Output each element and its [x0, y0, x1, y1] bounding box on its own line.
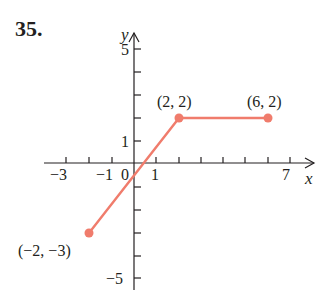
x-axis — [44, 157, 314, 168]
data-point — [85, 229, 94, 238]
x-tick-label: −3 — [50, 166, 67, 183]
x-tick-label: 7 — [282, 166, 290, 183]
y-tick-label: 1 — [121, 133, 129, 150]
point-label: (−2, −3) — [18, 242, 71, 260]
x-tick-label: 1 — [151, 166, 159, 183]
graph: y x −3 −1 0 1 7 5 1 −5 (−2, −3) (2, 2) (… — [0, 0, 320, 291]
x-tick-label: 0 — [121, 166, 129, 183]
y-axis — [129, 33, 141, 290]
data-point — [175, 114, 184, 123]
x-axis-label: x — [304, 169, 313, 188]
y-tick-label: 5 — [121, 41, 129, 58]
y-tick-label: −5 — [106, 270, 123, 287]
x-tick-label: −1 — [96, 166, 113, 183]
data-point — [264, 114, 273, 123]
point-label: (2, 2) — [157, 93, 192, 111]
point-label: (6, 2) — [247, 93, 282, 111]
